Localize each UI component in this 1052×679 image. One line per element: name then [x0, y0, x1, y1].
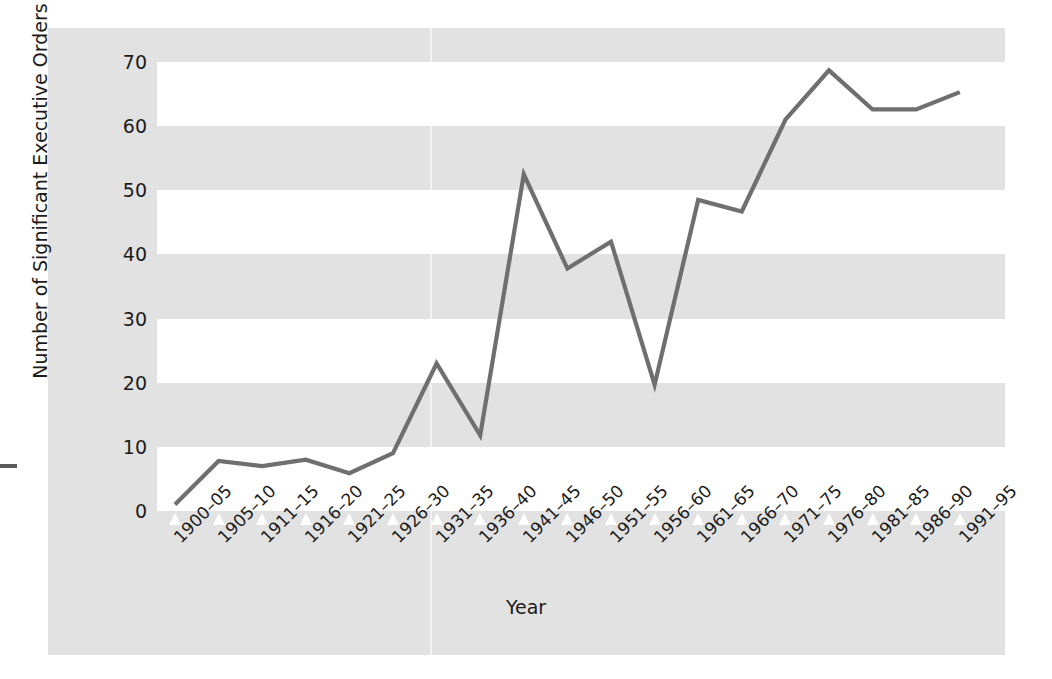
chart-figure: 010203040506070 Number of Significant Ex… — [0, 0, 1052, 679]
y-tick-label: 50 — [103, 181, 147, 200]
left-edge-dash-mark — [0, 464, 17, 468]
y-axis-title: Number of Significant Executive Orders — [29, 1, 51, 381]
y-tick-label: 60 — [103, 117, 147, 136]
y-tick-label: 10 — [103, 438, 147, 457]
y-tick-label: 0 — [103, 502, 147, 521]
y-tick-label: 30 — [103, 310, 147, 329]
series-line-executive-orders — [157, 62, 1005, 511]
y-tick-label: 70 — [103, 53, 147, 72]
x-axis-title: Year — [0, 596, 1052, 618]
y-tick-label: 20 — [103, 374, 147, 393]
y-tick-label: 40 — [103, 245, 147, 264]
